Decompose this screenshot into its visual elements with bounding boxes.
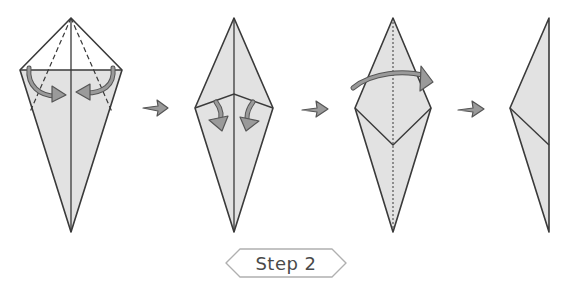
panel-1-kite-base	[20, 18, 122, 232]
panel-2-folded-flaps	[195, 18, 273, 232]
panel-4-result	[510, 18, 549, 232]
next-step-arrow-icon	[302, 101, 328, 117]
next-step-arrow-icon	[143, 100, 168, 116]
next-step-arrow-icon	[458, 101, 484, 117]
panel-3-fold-in-half	[353, 18, 433, 232]
step-label: Step 2	[226, 248, 346, 278]
